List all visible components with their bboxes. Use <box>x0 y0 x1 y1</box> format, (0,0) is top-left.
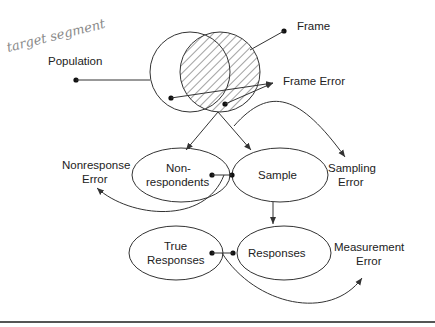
measurement-error-arrow <box>222 253 362 303</box>
frame-circle <box>180 32 260 112</box>
nonresponse-error-label-1: Nonresponse <box>62 159 130 171</box>
population-label: Population <box>48 55 102 67</box>
sampling-error-label-2: Error <box>338 176 364 188</box>
measurement-error-label-1: Measurement <box>334 241 405 253</box>
survey-error-diagram: target segment Population Frame Frame Er… <box>0 0 435 327</box>
frame-leader <box>250 31 284 50</box>
measurement-error-label-2: Error <box>356 255 382 267</box>
frame-error-label: Frame Error <box>283 75 345 87</box>
sample-label: Sample <box>258 169 297 181</box>
responses-label: Responses <box>248 247 306 259</box>
nonrespondents-label-1: Non- <box>166 162 191 174</box>
handwritten-annotation: target segment <box>5 16 107 55</box>
sampling-error-label-1: Sampling <box>328 162 376 174</box>
arrow-to-nonrespondents <box>186 112 218 150</box>
true-responses-ellipse <box>129 226 223 280</box>
true-responses-label-2: Responses <box>147 254 205 266</box>
frame-label: Frame <box>297 20 330 32</box>
arrow-to-sample <box>218 112 251 150</box>
nonresponse-error-label-2: Error <box>82 173 108 185</box>
nonrespondents-label-2: respondents <box>146 176 210 188</box>
true-responses-label-1: True <box>164 240 187 252</box>
